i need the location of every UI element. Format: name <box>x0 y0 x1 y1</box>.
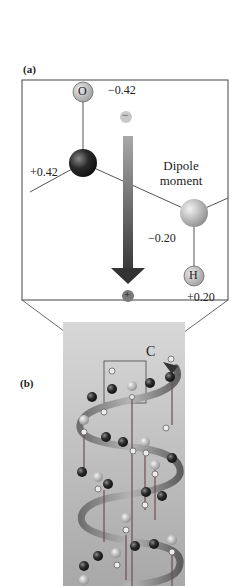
panel-b-label: (b) <box>20 377 33 389</box>
dipole-negative-sign: − <box>122 108 129 123</box>
oxygen-symbol: O <box>78 84 87 99</box>
nitrogen-charge: −0.20 <box>148 231 176 246</box>
dipole-moment-label: Dipole moment <box>146 158 216 188</box>
oxygen-charge: −0.42 <box>108 83 136 98</box>
dipole-positive-sign: + <box>124 288 130 300</box>
inset-label-c: C <box>146 344 155 360</box>
carbon-atom <box>69 149 97 177</box>
hydrogen-charge: +0.20 <box>187 290 215 305</box>
dipole-label-line2: moment <box>146 173 216 188</box>
dipole-label-line1: Dipole <box>146 158 216 173</box>
nitrogen-atom <box>180 199 208 227</box>
carbon-charge: +0.42 <box>30 165 58 180</box>
hydrogen-symbol: H <box>189 268 198 283</box>
